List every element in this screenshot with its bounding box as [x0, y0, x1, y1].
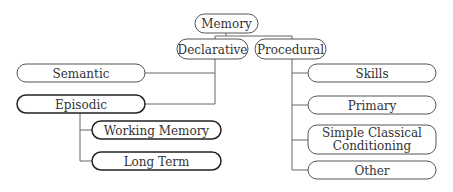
node-working-memory-label: Working Memory — [104, 124, 210, 138]
node-primary-label: Primary — [348, 99, 397, 113]
node-primary[interactable]: Primary — [308, 96, 436, 114]
edge-episodic-working-memory — [80, 113, 92, 130]
node-semantic-label: Semantic — [53, 67, 110, 81]
node-procedural-label: Procedural — [257, 43, 324, 57]
edge-procedural-other — [292, 140, 308, 170]
edge-memory-declarative — [215, 33, 226, 39]
node-simple-classical-conditioning[interactable]: Simple Classical Conditioning — [308, 125, 436, 154]
edge-declarative-semantic — [145, 59, 215, 73]
node-simple-classical-conditioning-label-line-1: Simple Classical — [322, 126, 422, 140]
node-long-term-label: Long Term — [124, 155, 190, 169]
edge-procedural-simple-classical-conditioning — [292, 105, 308, 140]
node-memory-label: Memory — [201, 17, 252, 31]
node-procedural[interactable]: Procedural — [255, 39, 326, 59]
node-skills[interactable]: Skills — [308, 64, 436, 82]
edge-procedural-skills — [292, 59, 308, 73]
edge-declarative-episodic — [145, 73, 215, 104]
node-other[interactable]: Other — [308, 161, 436, 179]
memory-taxonomy-diagram: Memory Declarative Procedural Semantic E… — [0, 0, 453, 192]
node-other-label: Other — [354, 164, 389, 178]
node-episodic-label: Episodic — [55, 98, 107, 112]
node-declarative[interactable]: Declarative — [177, 39, 248, 59]
node-declarative-label: Declarative — [178, 43, 248, 57]
edge-procedural-primary — [292, 73, 308, 105]
edge-episodic-long-term — [80, 130, 92, 161]
node-episodic[interactable]: Episodic — [17, 95, 145, 113]
node-simple-classical-conditioning-label-line-2: Conditioning — [333, 139, 412, 153]
node-semantic[interactable]: Semantic — [17, 64, 145, 82]
node-skills-label: Skills — [355, 67, 388, 81]
node-long-term[interactable]: Long Term — [92, 152, 221, 170]
node-memory[interactable]: Memory — [195, 14, 258, 33]
node-working-memory[interactable]: Working Memory — [92, 121, 221, 139]
